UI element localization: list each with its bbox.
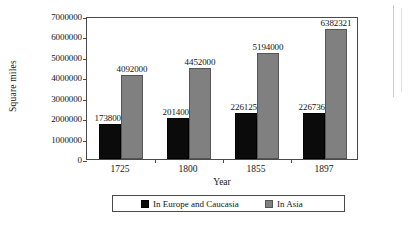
y-axis-tick-mark (83, 79, 87, 80)
y-axis-tick-label: 0 (30, 155, 82, 165)
y-axis-tick-label: 4000000 (30, 73, 82, 83)
x-axis-tick-label: 1725 (111, 163, 130, 175)
x-axis-tick-labels: 1725180018551897 (86, 163, 358, 177)
y-axis-title: Square miles (8, 26, 18, 146)
bar-europe-caucasia-1855[interactable]: 2261250 (235, 113, 257, 159)
scan-artifact (393, 5, 394, 97)
y-axis-tick-label: 6000000 (30, 32, 82, 42)
bar-group: 17380004092000 (99, 18, 143, 159)
bar-asia-1897[interactable]: 6382321 (325, 29, 347, 159)
bar-europe-caucasia-1897[interactable]: 2267360 (303, 113, 325, 159)
bar-chart: Square miles 010000002000000300000040000… (0, 0, 410, 225)
y-axis-tick-mark (83, 120, 87, 121)
x-axis-tick-label: 1897 (315, 163, 334, 175)
x-axis-tick-label: 1855 (247, 163, 266, 175)
bar-value-label: 4452000 (185, 57, 216, 67)
legend-item-asia[interactable]: In Asia (265, 198, 303, 210)
legend-swatch-icon (265, 200, 273, 208)
y-axis-tick-labels: 0100000020000003000000400000050000006000… (30, 12, 82, 164)
bar-group: 22612505194000 (235, 18, 279, 159)
y-axis-tick-label: 3000000 (30, 94, 82, 104)
bar-asia-1855[interactable]: 5194000 (257, 53, 279, 159)
bar-value-label: 6382321 (321, 18, 352, 28)
bar-asia-1800[interactable]: 4452000 (189, 68, 211, 159)
legend-item-europe-caucasia[interactable]: In Europe and Caucasia (141, 198, 239, 210)
bar-group: 22673606382321 (303, 18, 347, 159)
y-axis-tick-mark (83, 38, 87, 39)
plot-inner: 1738000409200020140004452000226125051940… (87, 18, 357, 159)
bar-value-label: 4092000 (117, 64, 148, 74)
x-axis-tick-label: 1800 (179, 163, 198, 175)
bar-asia-1725[interactable]: 4092000 (121, 75, 143, 159)
y-axis-tick-label: 1000000 (30, 135, 82, 145)
legend-swatch-icon (141, 200, 149, 208)
legend-item-label: In Asia (277, 199, 303, 209)
legend: In Europe and CaucasiaIn Asia (112, 195, 345, 212)
x-axis-title: Year (86, 177, 358, 187)
y-axis-tick-mark (83, 141, 87, 142)
y-axis-tick-label: 7000000 (30, 12, 82, 22)
y-axis-tick-mark (83, 59, 87, 60)
scan-artifact (401, 8, 402, 92)
bar-value-label: 5194000 (253, 42, 284, 52)
y-axis-tick-label: 2000000 (30, 114, 82, 124)
y-axis-tick-mark (83, 100, 87, 101)
legend-item-label: In Europe and Caucasia (153, 199, 239, 209)
bar-europe-caucasia-1725[interactable]: 1738000 (99, 124, 121, 160)
y-axis-tick-mark (83, 18, 87, 19)
y-axis-tick-label: 5000000 (30, 53, 82, 63)
y-axis-tick-mark (83, 161, 87, 162)
bar-europe-caucasia-1800[interactable]: 2014000 (167, 118, 189, 159)
plot-area: 1738000409200020140004452000226125051940… (86, 17, 358, 160)
bar-group: 20140004452000 (167, 18, 211, 159)
